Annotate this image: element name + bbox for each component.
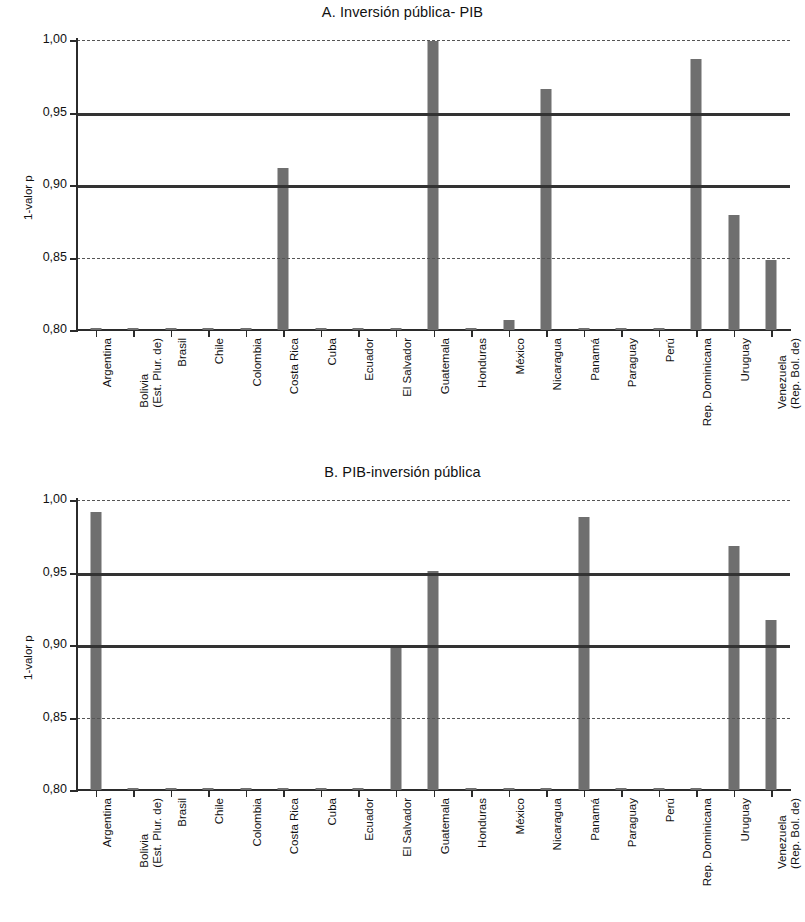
gridline-0-95: [77, 573, 790, 576]
x-tick-label: Bolivia(Est. Plur. de): [138, 798, 164, 868]
x-tick-mark: [621, 790, 623, 797]
x-tick-label: Paraguay: [626, 338, 639, 387]
x-tick-mark: [246, 330, 248, 337]
x-tick-mark: [584, 330, 586, 337]
x-tick-mark: [321, 790, 323, 797]
x-tick-label: Perú: [664, 338, 677, 362]
x-tick-mark: [434, 330, 436, 337]
x-tick-label: Nicaragua: [551, 798, 564, 850]
bar: [691, 59, 702, 330]
gridline-0-9: [77, 185, 790, 188]
x-tick-mark: [696, 330, 698, 337]
x-tick-label: Rep. Dominicana: [701, 338, 714, 426]
gridline-0-85: [77, 718, 790, 719]
x-tick-label: Guatemala: [439, 338, 452, 394]
chart-b-x-tick-labels: ArgentinaBolivia(Est. Plur. de)BrasilChi…: [77, 798, 790, 918]
x-tick-mark: [509, 790, 511, 797]
x-tick-label: México: [514, 798, 527, 834]
chart-panel-a: A. Inversión pública- PIB 1-valor p 1,00…: [0, 0, 805, 462]
x-tick-mark: [584, 790, 586, 797]
gridline-0-95: [77, 113, 790, 116]
bar: [766, 260, 777, 330]
x-tick-mark: [734, 330, 736, 337]
x-tick-mark: [546, 790, 548, 797]
gridline-0-85: [77, 258, 790, 259]
x-tick-mark: [659, 330, 661, 337]
x-tick-mark: [321, 330, 323, 337]
x-tick-mark: [659, 790, 661, 797]
x-tick-label: Ecuador: [363, 798, 376, 841]
x-tick-label: Nicaragua: [551, 338, 564, 390]
x-tick-mark: [283, 330, 285, 337]
x-tick-mark: [171, 790, 173, 797]
y-tick-mark: [70, 645, 78, 647]
y-tick-label: 0,85: [7, 710, 67, 724]
y-tick-mark: [70, 573, 78, 575]
x-tick-mark: [133, 330, 135, 337]
y-tick-label: 0,80: [7, 782, 67, 796]
bar: [578, 517, 589, 790]
x-tick-mark: [171, 330, 173, 337]
bar: [541, 89, 552, 330]
x-tick-mark: [358, 330, 360, 337]
x-tick-mark: [96, 790, 98, 797]
x-tick-label: Uruguay: [739, 798, 752, 841]
x-tick-label: Cuba: [326, 338, 339, 366]
x-tick-mark: [734, 790, 736, 797]
x-tick-mark: [246, 790, 248, 797]
y-tick-label: 1,00: [7, 492, 67, 506]
y-tick-mark: [70, 718, 78, 720]
x-tick-label: Chile: [213, 798, 226, 824]
x-tick-label: Venezuela(Rep. Bol. de): [776, 798, 802, 869]
x-tick-mark: [396, 790, 398, 797]
x-tick-label: Cuba: [326, 798, 339, 826]
y-tick-label: 0,85: [7, 250, 67, 264]
gridline-0-9: [77, 645, 790, 648]
y-tick-label: 0,90: [7, 637, 67, 651]
x-tick-label: Uruguay: [739, 338, 752, 381]
x-tick-label: El Salvador: [401, 798, 414, 857]
chart-b-title: B. PIB-inversión pública: [0, 464, 805, 480]
y-tick-mark: [70, 40, 78, 42]
figure-page: A. Inversión pública- PIB 1-valor p 1,00…: [0, 0, 805, 922]
x-tick-mark: [434, 790, 436, 797]
bar: [278, 168, 289, 330]
x-tick-label: México: [514, 338, 527, 374]
bar: [90, 512, 101, 790]
x-tick-label: Bolivia(Est. Plur. de): [138, 338, 164, 408]
x-tick-label: Ecuador: [363, 338, 376, 381]
bar: [728, 546, 739, 790]
x-tick-label: Colombia: [251, 338, 264, 387]
bar: [428, 571, 439, 790]
x-tick-label: Colombia: [251, 798, 264, 847]
y-tick-mark: [70, 258, 78, 260]
y-tick-mark: [70, 790, 78, 792]
bar: [728, 215, 739, 330]
y-tick-mark: [70, 500, 78, 502]
y-tick-label: 0,80: [7, 322, 67, 336]
x-tick-mark: [771, 330, 773, 337]
y-tick-mark: [70, 113, 78, 115]
chart-a-title: A. Inversión pública- PIB: [0, 4, 805, 20]
chart-a-x-tick-labels: ArgentinaBolivia(Est. Plur. de)BrasilChi…: [77, 338, 790, 458]
x-tick-label: Brasil: [176, 338, 189, 367]
x-tick-mark: [696, 790, 698, 797]
x-tick-mark: [471, 790, 473, 797]
x-tick-mark: [509, 330, 511, 337]
x-tick-mark: [358, 790, 360, 797]
y-tick-label: 0,95: [7, 105, 67, 119]
x-tick-mark: [771, 790, 773, 797]
x-tick-label: Brasil: [176, 798, 189, 827]
x-tick-mark: [96, 330, 98, 337]
x-tick-label: Panamá: [589, 338, 602, 381]
x-tick-mark: [621, 330, 623, 337]
x-tick-label: Honduras: [476, 798, 489, 848]
x-tick-label: Paraguay: [626, 798, 639, 847]
gridline-1: [77, 500, 790, 501]
x-tick-label: Costa Rica: [288, 798, 301, 854]
y-tick-label: 0,90: [7, 177, 67, 191]
x-tick-label: Guatemala: [439, 798, 452, 854]
gridline-1: [77, 40, 790, 41]
x-tick-label: Venezuela(Rep. Bol. de): [776, 338, 802, 409]
x-tick-mark: [546, 330, 548, 337]
